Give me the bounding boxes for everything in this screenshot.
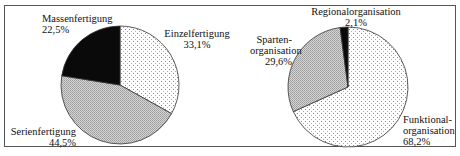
label-funktionalorganisation: Funktional- organisation 68,2% (403, 114, 455, 147)
label-name-line2: organisation (403, 125, 455, 136)
label-name-line2: organisation (250, 45, 292, 56)
label-name: Serienfertigung (10, 126, 76, 137)
label-name-line1: Funktional- (403, 114, 455, 125)
label-name-line1: Sparten- (250, 34, 292, 45)
label-name: Regionalorganisation (300, 6, 412, 17)
pie-right (288, 27, 408, 147)
label-name: Einzelfertigung (160, 28, 234, 39)
label-name: Massenfertigung (42, 13, 113, 24)
label-massenfertigung: Massenfertigung 22,5% (42, 13, 113, 35)
label-spartenorganisation: Sparten- organisation 29,6% (250, 34, 292, 67)
label-value: 33,1% (160, 39, 234, 50)
label-value: 44,5% (10, 137, 76, 148)
label-value: 2,1% (300, 17, 412, 28)
label-value: 22,5% (42, 24, 113, 35)
label-einzelfertigung: Einzelfertigung 33,1% (160, 28, 234, 50)
label-value: 68,2% (403, 136, 455, 147)
label-regionalorganisation: Regionalorganisation 2,1% (300, 6, 412, 28)
label-serienfertigung: Serienfertigung 44,5% (10, 126, 76, 148)
label-value: 29,6% (250, 56, 292, 67)
